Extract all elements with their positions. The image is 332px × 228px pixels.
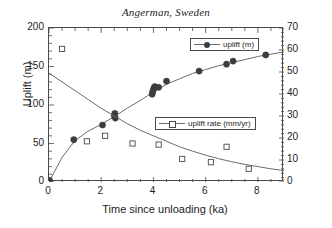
y-tick-label-right: 70 [287, 21, 317, 32]
chart-title: Angerman, Sweden [0, 6, 332, 18]
y-tick-label-left: 200 [14, 21, 44, 32]
open-square-icon [169, 121, 176, 128]
y-tick-label-right: 10 [287, 153, 317, 164]
legend-uplift-label: uplift (m) [223, 41, 254, 49]
y-axis-label-left: Uplift (m) [21, 29, 33, 139]
plot-svg [49, 28, 284, 182]
x-tick-label: 8 [242, 185, 272, 196]
legend-uplift-rate-label: uplift rate (mm/yr) [188, 120, 251, 128]
y-tick-label-left: 50 [14, 137, 44, 148]
x-tick-label: 6 [190, 185, 220, 196]
y-tick-label-left: 150 [14, 60, 44, 71]
filled-circle-icon [204, 42, 210, 48]
x-tick-label: 4 [137, 185, 167, 196]
legend-sample-rate-icon [159, 119, 185, 128]
y-tick-label-left: 100 [14, 98, 44, 109]
y-tick-label-right: 30 [287, 109, 317, 120]
y-tick-label-right: 50 [287, 65, 317, 76]
x-tick-label: 2 [85, 185, 115, 196]
chart-figure: Angerman, Sweden Uplift (m) Uplift rate … [0, 0, 332, 228]
y-tick-label-right: 20 [287, 131, 317, 142]
x-tick-label: 0 [33, 185, 63, 196]
y-tick-label-left: 0 [14, 175, 44, 186]
y-tick-label-right: 40 [287, 87, 317, 98]
legend-uplift-rate[interactable]: uplift rate (mm/yr) [155, 117, 256, 130]
y-tick-label-right: 60 [287, 43, 317, 54]
legend-sample-uplift-icon [194, 40, 220, 49]
legend-uplift[interactable]: uplift (m) [190, 38, 259, 51]
y-tick-label-right: 0 [287, 175, 317, 186]
x-axis-label: Time since unloading (ka) [30, 203, 300, 215]
